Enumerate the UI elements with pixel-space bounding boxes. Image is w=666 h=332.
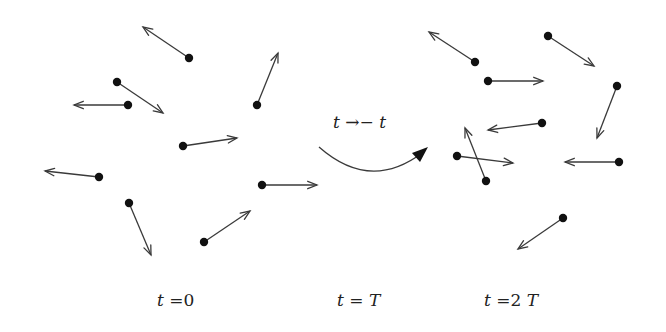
velocity-vector [117,82,163,113]
arrowhead-icon [429,32,439,40]
particle-dot [124,101,132,109]
particle [200,211,250,246]
particles-t2T [429,32,623,249]
velocity-vector [257,53,278,105]
particle-dot [179,142,187,150]
particle-dot [200,238,208,246]
particle-dot [95,173,103,181]
particle-dot [113,78,121,86]
particle-dot [253,101,261,109]
particle-dot [482,177,490,185]
velocity-vector [129,203,151,255]
velocity-vector [465,128,486,181]
particle [143,27,193,62]
particle [465,128,490,185]
arrowhead-icon [240,211,250,219]
arrowhead-icon [518,241,528,249]
particle [74,101,132,109]
particle-dot [125,199,133,207]
particle [488,119,546,133]
particle-dot [471,58,479,66]
arrowhead-icon [143,27,153,35]
velocity-vector [429,32,475,62]
velocity-vector [597,86,617,138]
particle-dot [538,119,546,127]
arrowhead-icon [584,58,594,66]
particle-dot [613,82,621,90]
velocity-vector [143,27,189,58]
particle-dot [484,77,492,85]
particle-dot [615,158,623,166]
particle [544,32,594,66]
particle [258,181,317,189]
curved-arrow-icon [319,147,422,171]
arrowhead-icon [412,147,428,162]
particle [253,53,278,109]
particle [429,32,479,66]
particle [179,136,237,151]
velocity-vector [518,218,563,249]
particle [518,214,567,249]
time-label-2T: t =2 T [484,290,540,310]
velocity-vector [457,156,513,163]
velocity-vector [548,36,594,66]
time-label-T: t = T [337,290,382,310]
velocity-vector [204,211,250,242]
particle-dot [185,54,193,62]
particle [484,77,543,85]
particle-dot [559,214,567,222]
transition-label: t →− t [333,112,386,132]
particle-dot [258,181,266,189]
particle [565,158,623,166]
particle-dot [544,32,552,40]
particle-dot [453,152,461,160]
particle [125,199,151,255]
particle [597,82,621,138]
particle [113,78,163,113]
time-reversal-diagram: t →− t t =0 t = T t =2 T [0,0,666,332]
particles-t0 [45,27,317,255]
time-reversal-arrow [319,147,428,171]
time-label-t0: t =0 [157,290,194,310]
particle [45,168,103,181]
arrowhead-icon [153,105,163,113]
velocity-vector [488,123,542,130]
velocity-vector [45,171,99,177]
particle [453,152,513,166]
